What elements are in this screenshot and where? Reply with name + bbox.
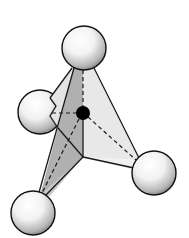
tetrahedron-svg xyxy=(0,0,189,238)
tetrahedron-faces xyxy=(40,68,140,196)
face-right xyxy=(83,68,140,160)
central-atom xyxy=(76,106,90,120)
tetrahedron-diagram: Tetrahedral molecular geometry xyxy=(0,0,189,238)
ligand-sphere-top xyxy=(62,26,106,70)
ligand-sphere-bottom-left xyxy=(11,191,55,235)
ligand-sphere-right xyxy=(132,151,176,195)
